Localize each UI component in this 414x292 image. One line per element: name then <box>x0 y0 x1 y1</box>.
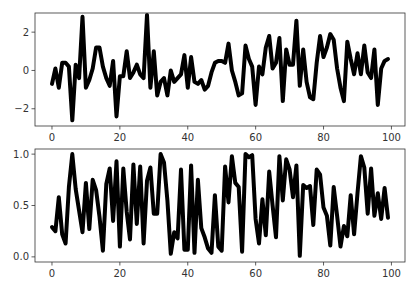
top-y-ticks: 20−2 <box>14 27 35 115</box>
x-tick-label: 0 <box>49 132 55 143</box>
x-tick-label: 100 <box>382 132 401 143</box>
y-tick-label: 0.5 <box>13 200 29 211</box>
y-tick-label: 0.0 <box>13 251 29 262</box>
x-tick-label: 40 <box>181 268 194 279</box>
x-tick-label: 60 <box>249 268 262 279</box>
x-tick-label: 0 <box>49 268 55 279</box>
x-tick-label: 80 <box>317 268 330 279</box>
top-x-ticks: 020406080100 <box>49 126 401 143</box>
top-subplot: 020406080100 20−2 <box>14 13 405 143</box>
x-tick-label: 60 <box>249 132 262 143</box>
x-tick-label: 40 <box>181 132 194 143</box>
y-tick-label: 2 <box>23 27 29 38</box>
y-tick-label: −2 <box>14 103 29 114</box>
bottom-subplot: 020406080100 1.00.50.0 <box>13 149 405 279</box>
x-tick-label: 20 <box>113 268 126 279</box>
y-tick-label: 1.0 <box>13 149 29 160</box>
x-tick-label: 100 <box>382 268 401 279</box>
x-tick-label: 80 <box>317 132 330 143</box>
figure: 020406080100 20−2 020406080100 1.00.50.0 <box>0 0 414 292</box>
bottom-x-ticks: 020406080100 <box>49 262 401 279</box>
bottom-y-ticks: 1.00.50.0 <box>13 149 35 263</box>
x-tick-label: 20 <box>113 132 126 143</box>
y-tick-label: 0 <box>23 65 29 76</box>
